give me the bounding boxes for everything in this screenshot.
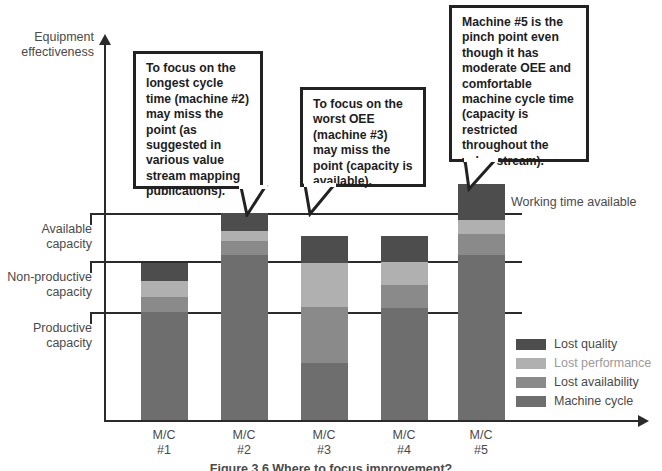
- bar-segment-lost-quality: [381, 236, 428, 262]
- bar-segment-lost-performance: [301, 263, 348, 307]
- working-time-available-label: Working time available: [511, 195, 637, 209]
- bar-segment-lost-performance: [221, 231, 268, 241]
- x-tick-label-machine-4: M/C#4: [369, 428, 439, 458]
- bar-machine-1: [141, 263, 188, 420]
- y-axis-line: [104, 42, 106, 422]
- x-tick-label-machine-1: M/C#1: [129, 428, 199, 458]
- legend-label-lost-availability: Lost availability: [554, 375, 639, 389]
- callout-machine-5-tail-icon: [449, 158, 501, 192]
- bar-segment-machine-cycle: [221, 255, 268, 420]
- x-axis-arrow-icon: [638, 415, 649, 427]
- bar-machine-4: [381, 236, 428, 420]
- legend-item-lost-quality: Lost quality: [516, 336, 656, 352]
- bar-segment-machine-cycle: [381, 308, 428, 420]
- bar-segment-lost-availability: [141, 297, 188, 312]
- legend-item-machine-cycle: Machine cycle: [516, 393, 656, 409]
- bracket-non-productive-capacity: [90, 261, 106, 273]
- bar-segment-lost-performance: [458, 220, 505, 234]
- legend-swatch-lost-availability: [516, 377, 546, 388]
- bar-machine-3: [301, 236, 348, 420]
- bar-segment-lost-availability: [458, 234, 505, 255]
- bar-segment-lost-availability: [221, 241, 268, 255]
- callout-machine-5: Machine #5 is the pinch point even thoug…: [449, 5, 589, 162]
- bar-segment-machine-cycle: [141, 312, 188, 420]
- figure-caption: Figure 3.6 Where to focus improvement?: [0, 462, 662, 471]
- y-axis-arrow-icon: [99, 34, 111, 45]
- bar-segment-lost-performance: [381, 262, 428, 285]
- bar-segment-machine-cycle: [458, 255, 505, 420]
- legend-swatch-lost-quality: [516, 339, 546, 350]
- bar-segment-lost-quality: [141, 263, 188, 281]
- band-label-productive-capacity: Productivecapacity: [0, 321, 92, 351]
- bracket-productive-capacity: [90, 312, 106, 324]
- bar-segment-lost-quality: [301, 236, 348, 263]
- x-axis-line: [104, 420, 640, 422]
- legend-item-lost-availability: Lost availability: [516, 374, 656, 390]
- bar-machine-2: [221, 213, 268, 420]
- legend-label-lost-quality: Lost quality: [554, 337, 617, 351]
- legend-label-lost-performance: Lost performance: [554, 356, 651, 370]
- bar-segment-machine-cycle: [301, 363, 348, 420]
- bar-segment-lost-performance: [141, 281, 188, 297]
- bar-machine-5: [458, 184, 505, 420]
- callout-machine-2-tail-icon: [225, 185, 271, 217]
- legend-label-machine-cycle: Machine cycle: [554, 394, 633, 408]
- legend: Lost quality Lost performance Lost avail…: [516, 336, 656, 412]
- x-tick-label-machine-2: M/C#2: [209, 428, 279, 458]
- x-tick-label-machine-3: M/C#3: [289, 428, 359, 458]
- legend-swatch-machine-cycle: [516, 396, 546, 407]
- y-axis-title: Equipment effectiveness: [6, 30, 94, 60]
- legend-item-lost-performance: Lost performance: [516, 355, 656, 371]
- figure-container: Equipment effectiveness Availablecapacit…: [0, 0, 662, 471]
- bar-segment-lost-availability: [301, 307, 348, 363]
- callout-machine-3: To focus on the worst OEE (machine #3) m…: [300, 87, 426, 187]
- callout-machine-3-tail-icon: [300, 183, 346, 217]
- bar-segment-lost-availability: [381, 285, 428, 308]
- band-label-available-capacity: Availablecapacity: [0, 222, 92, 252]
- legend-swatch-lost-performance: [516, 358, 546, 369]
- band-label-non-productive-capacity: Non-productivecapacity: [0, 270, 92, 300]
- callout-machine-2: To focus on the longest cycle time (mach…: [133, 51, 263, 189]
- x-tick-label-machine-5: M/C#5: [446, 428, 516, 458]
- bracket-available-capacity: [90, 213, 106, 225]
